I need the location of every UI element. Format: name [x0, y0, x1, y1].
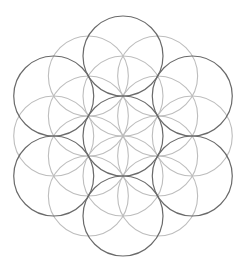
flower-of-life-diagram — [0, 0, 246, 269]
light-circles-layer — [14, 36, 233, 236]
